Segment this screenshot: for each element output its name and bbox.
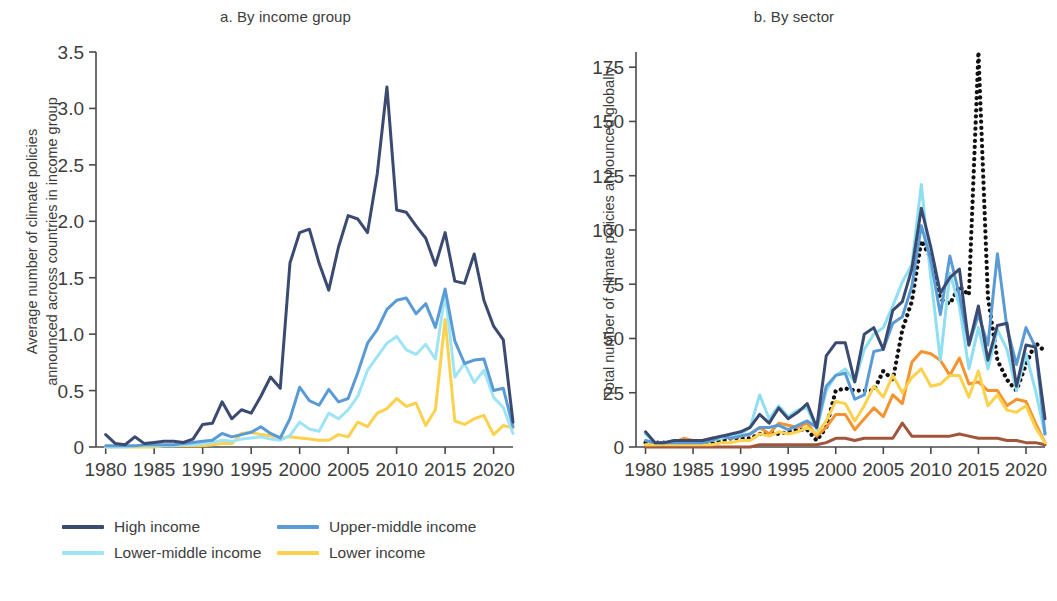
svg-text:1995: 1995 [767, 459, 809, 480]
svg-text:2.0: 2.0 [58, 211, 84, 232]
legend-item-lower-middle-income[interactable]: Lower-middle income [62, 544, 277, 562]
svg-text:1990: 1990 [182, 459, 224, 480]
figure-climate-policies: a. By income group Average number of cli… [0, 0, 1057, 601]
svg-text:150: 150 [592, 111, 624, 132]
panel-a-by-income-group: a. By income group Average number of cli… [0, 0, 531, 601]
legend-label-upper-middle-income: Upper-middle income [329, 518, 476, 536]
legend-label-high-income: High income [114, 518, 200, 536]
legend-row: Lower-middle income Lower income [62, 544, 522, 562]
svg-text:2.5: 2.5 [58, 155, 84, 176]
svg-text:75: 75 [603, 274, 624, 295]
svg-text:2020: 2020 [472, 459, 514, 480]
svg-text:1985: 1985 [133, 459, 175, 480]
svg-text:1980: 1980 [624, 459, 666, 480]
svg-text:175: 175 [592, 57, 624, 78]
legend-swatch-lower-middle-income [62, 551, 104, 555]
svg-text:50: 50 [603, 328, 624, 349]
panel-b-plot: 0255075100125150175198019851990199520002… [531, 0, 1057, 505]
legend-swatch-upper-middle-income [277, 525, 319, 529]
svg-text:0: 0 [613, 437, 624, 458]
legend-swatch-lower-income [277, 551, 319, 555]
svg-text:100: 100 [592, 220, 624, 241]
svg-text:25: 25 [603, 383, 624, 404]
svg-text:1.5: 1.5 [58, 268, 84, 289]
svg-text:2000: 2000 [279, 459, 321, 480]
svg-text:0.5: 0.5 [58, 381, 84, 402]
svg-text:2020: 2020 [1005, 459, 1047, 480]
svg-text:1990: 1990 [719, 459, 761, 480]
svg-text:0: 0 [73, 437, 84, 458]
svg-text:2005: 2005 [327, 459, 369, 480]
svg-text:125: 125 [592, 166, 624, 187]
svg-text:2015: 2015 [424, 459, 466, 480]
svg-text:2005: 2005 [862, 459, 904, 480]
legend-swatch-high-income [62, 525, 104, 529]
svg-text:3.0: 3.0 [58, 98, 84, 119]
svg-text:1.0: 1.0 [58, 324, 84, 345]
svg-text:1995: 1995 [230, 459, 272, 480]
legend-item-upper-middle-income[interactable]: Upper-middle income [277, 518, 476, 536]
svg-text:3.5: 3.5 [58, 42, 84, 63]
legend-item-lower-income[interactable]: Lower income [277, 544, 426, 562]
svg-text:2000: 2000 [815, 459, 857, 480]
svg-text:2015: 2015 [957, 459, 999, 480]
legend-label-lower-middle-income: Lower-middle income [114, 544, 261, 562]
svg-text:2010: 2010 [375, 459, 417, 480]
panel-a-plot: 00.51.01.52.02.53.03.5198019851990199520… [0, 0, 531, 505]
panel-a-legend: High income Upper-middle income Lower-mi… [62, 518, 522, 570]
legend-row: High income Upper-middle income [62, 518, 522, 536]
svg-text:1980: 1980 [85, 459, 127, 480]
svg-text:2010: 2010 [910, 459, 952, 480]
legend-label-lower-income: Lower income [329, 544, 426, 562]
svg-text:1985: 1985 [672, 459, 714, 480]
panel-b-by-sector: b. By sector Total number of climate pol… [531, 0, 1057, 601]
legend-item-high-income[interactable]: High income [62, 518, 277, 536]
